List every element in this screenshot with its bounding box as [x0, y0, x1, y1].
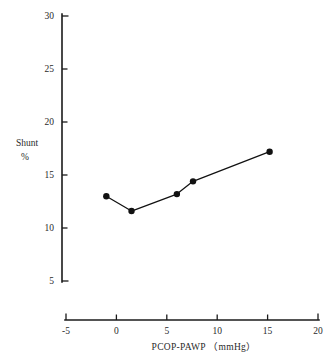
data-point-2 [128, 208, 134, 214]
tick-marks [62, 16, 318, 320]
x-tick-label-20: 20 [313, 326, 323, 336]
y-axis-title-unit: % [21, 152, 29, 162]
data-point-4 [190, 178, 196, 184]
x-axis-title: PCOP-PAWP （mmHg） [152, 341, 257, 352]
x-tick-labels: -505101520 [62, 326, 323, 336]
x-tick-label-0: 0 [114, 326, 119, 336]
data-series [103, 148, 273, 214]
x-tick-label-5: 5 [164, 326, 169, 336]
data-point-3 [174, 191, 180, 197]
y-tick-label-20: 20 [45, 117, 55, 127]
data-point-1 [103, 193, 109, 199]
y-tick-label-15: 15 [45, 170, 55, 180]
y-tick-label-25: 25 [45, 64, 55, 74]
series-polyline [106, 152, 269, 211]
shunt-vs-pcop-pawp-chart: 51015202530 -505101520 Shunt%PCOP-PAWP （… [0, 0, 336, 362]
x-tick-label-15: 15 [263, 326, 273, 336]
axes [62, 14, 319, 320]
y-tick-label-30: 30 [45, 11, 55, 21]
y-tick-labels: 51015202530 [45, 11, 55, 286]
x-tick-label--5: -5 [62, 326, 70, 336]
data-point-5 [266, 148, 272, 154]
y-tick-label-10: 10 [45, 223, 55, 233]
x-tick-label-10: 10 [212, 326, 222, 336]
y-axis-title: Shunt [16, 138, 39, 148]
chart-page: 51015202530 -505101520 Shunt%PCOP-PAWP （… [0, 0, 336, 362]
y-tick-label-5: 5 [49, 276, 54, 286]
